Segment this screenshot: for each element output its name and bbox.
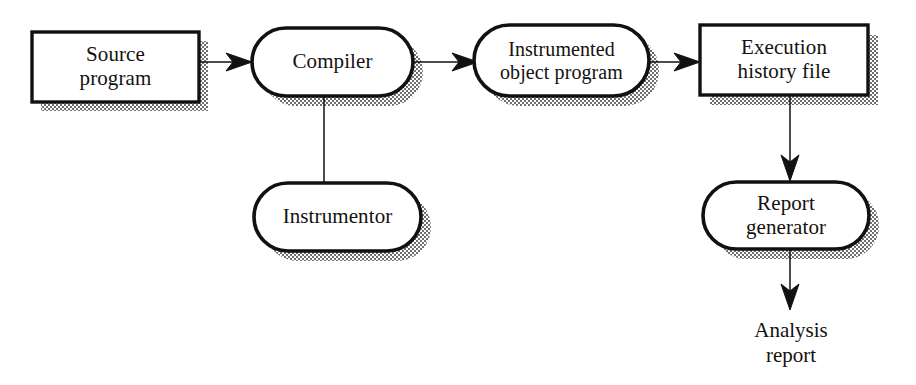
diagram-canvas: Source program Compiler Instrumented obj… (0, 0, 916, 385)
connector-compiler-to-iop (414, 53, 478, 71)
connector-ehf-to-report-generator (781, 96, 799, 181)
diagram-vector-layer (0, 0, 916, 385)
node-shape-layer (32, 25, 869, 251)
node-shape-instrumented-object-program (474, 25, 649, 96)
node-shape-compiler (252, 28, 413, 96)
node-shape-instrumentor (254, 183, 421, 251)
node-shape-execution-history-file (700, 25, 868, 95)
node-shape-report-generator (703, 182, 869, 249)
node-shape-source-program (32, 32, 199, 102)
